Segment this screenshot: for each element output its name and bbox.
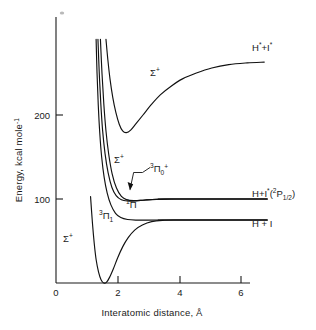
asymptote-label-h-star-plus-i-star: H*+I* bbox=[252, 41, 273, 53]
label-singlet-pi: 1Π bbox=[126, 198, 137, 210]
x-tick-label-4: 4 bbox=[177, 287, 182, 298]
pi-subscript-1: 1 bbox=[110, 216, 114, 223]
figure-canvas: 200 100 0 2 4 6 Energy, kcal mole-1 Inte… bbox=[0, 0, 316, 330]
asymptote-label-h-plus-i: H + I bbox=[252, 218, 272, 229]
label-triplet-pi-0-plus: 3Π0+ bbox=[150, 162, 168, 175]
y-axis-title-text: Energy, kcal mole bbox=[13, 124, 24, 202]
sigma-sup-top: + bbox=[156, 66, 160, 73]
y-tick-label-100: 100 bbox=[34, 194, 50, 205]
pi-subscript-0-sup: + bbox=[164, 163, 168, 170]
x-axis-title: Interatomic distance, Å bbox=[101, 307, 203, 318]
x-tick-label-0: 0 bbox=[53, 287, 58, 298]
asymptote-label-h-plus-i-star: H+I*(2P1/2) bbox=[252, 187, 295, 200]
sigma-sup-upper: + bbox=[120, 153, 124, 160]
asymptote-lines-group bbox=[158, 199, 268, 220]
label-upper-sigma-plus: Σ+ bbox=[114, 153, 124, 165]
potential-energy-figure: 200 100 0 2 4 6 Energy, kcal mole-1 Inte… bbox=[0, 0, 316, 330]
label-triplet-pi-1: 3Π1 bbox=[99, 209, 114, 222]
label-top-sigma-plus: Σ+ bbox=[150, 66, 160, 78]
leader-arrowhead-triplet-pi-0 bbox=[128, 182, 134, 191]
paren-close-mid: ) bbox=[292, 188, 295, 199]
axes-group bbox=[56, 17, 250, 283]
scan-artifact-speck bbox=[60, 11, 64, 14]
leader-annotation-group bbox=[128, 168, 150, 191]
curve-upper-sigma-plus bbox=[106, 39, 264, 132]
y-tick-label-200: 200 bbox=[34, 110, 50, 121]
tick-labels-group: 200 100 0 2 4 6 bbox=[34, 110, 244, 299]
y-axis-title: Energy, kcal mole-1 bbox=[13, 118, 24, 203]
x-tick-label-2: 2 bbox=[115, 287, 120, 298]
curve-ground-sigma-plus-well bbox=[91, 196, 268, 283]
label-ground-sigma-plus: Σ+ bbox=[63, 232, 73, 244]
i-star-sup: * bbox=[270, 41, 273, 48]
y-axis-title-exponent: -1 bbox=[13, 118, 20, 124]
term-subscript-mid: 1/2 bbox=[283, 194, 292, 201]
x-tick-label-6: 6 bbox=[238, 287, 243, 298]
state-labels-group: Σ+ Σ+ Σ+ 3Π0+ 1Π 3Π1 bbox=[63, 66, 168, 244]
sigma-sup-ground: + bbox=[69, 232, 73, 239]
asymptote-text-group: H*+I* H+I*(2P1/2) H + I bbox=[252, 41, 295, 229]
pi-glyph-singlet: Π bbox=[130, 199, 137, 210]
leader-line-triplet-pi-0 bbox=[134, 168, 151, 173]
